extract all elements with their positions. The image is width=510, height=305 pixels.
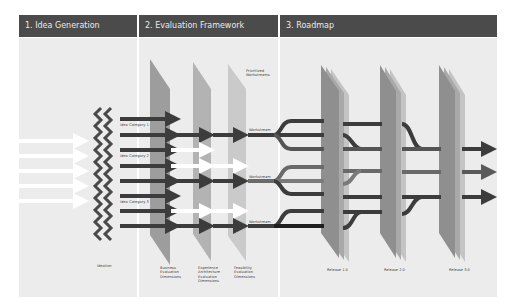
roadmap-planes bbox=[321, 65, 465, 262]
diagram-graphics bbox=[19, 15, 497, 297]
workstream-label-3: Workstream bbox=[249, 220, 271, 224]
business-dimensions-label: Business Evaluation Dimensions bbox=[160, 266, 181, 279]
ideation-zigzag bbox=[95, 108, 111, 240]
experience-architecture-dimensions-label: Experience Architecture Evaluation Dimen… bbox=[198, 266, 220, 284]
workstream-2 bbox=[248, 167, 324, 194]
release-label-3: Release 3.0 bbox=[449, 268, 470, 272]
workstream-1 bbox=[248, 121, 324, 149]
workstream-label-2: Workstream bbox=[249, 175, 271, 179]
evaluation-planes bbox=[150, 59, 246, 265]
idea-category-label-1: Idea Category 1 bbox=[120, 123, 149, 127]
evaluation-arrows-stage2 bbox=[171, 135, 203, 226]
input-arrows bbox=[19, 141, 77, 201]
prioritized-workstreams-label: Prioritized Workstreams bbox=[246, 69, 270, 78]
output-arrows bbox=[462, 149, 485, 197]
release-label-2: Release 2.0 bbox=[384, 268, 405, 272]
idea-category-label-2: Idea Category 2 bbox=[120, 154, 149, 158]
feasibility-dimensions-label: Feasibility Evaluation Dimensions bbox=[234, 266, 255, 279]
diagram: 1. Idea Generation 2. Evaluation Framewo… bbox=[19, 15, 497, 297]
workstream-label-1: Workstream bbox=[249, 128, 271, 132]
idea-category-label-3: Idea Category 3 bbox=[120, 200, 149, 204]
release-label-1: Release 1.0 bbox=[327, 268, 348, 272]
ideation-label: Ideation bbox=[97, 264, 112, 268]
release-2-to-3 bbox=[402, 124, 441, 214]
